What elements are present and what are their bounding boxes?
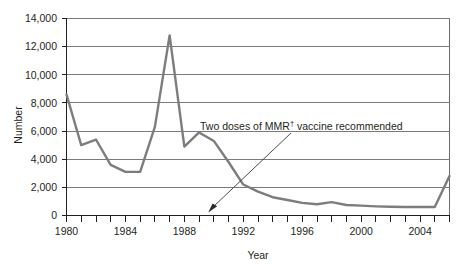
x-tick-label: 1992 xyxy=(232,225,256,237)
y-tick-label: 0 xyxy=(51,209,57,221)
x-tick-label: 2004 xyxy=(408,225,432,237)
y-tick-label: 12,000 xyxy=(25,40,57,52)
annotation-text-tail: vaccine recommended xyxy=(294,120,403,132)
y-tick-label: 2,000 xyxy=(31,181,57,193)
annotation-text-lead: Two doses of MMR xyxy=(200,120,290,132)
chart-background xyxy=(0,0,476,280)
y-axis-title: Number xyxy=(12,106,24,144)
x-tick-label: 1988 xyxy=(173,225,197,237)
measles-cases-line-chart: 14,000 12,000 10,000 8,000 6,000 4,000 2… xyxy=(0,0,476,280)
y-tick-label: 8,000 xyxy=(31,97,57,109)
y-tick-label: 10,000 xyxy=(25,69,57,81)
y-tick-label: 4,000 xyxy=(31,153,57,165)
x-tick-label: 2000 xyxy=(350,225,374,237)
y-tick-label: 6,000 xyxy=(31,125,57,137)
x-tick-label: 1980 xyxy=(55,225,79,237)
chart-figure: 14,000 12,000 10,000 8,000 6,000 4,000 2… xyxy=(0,0,476,280)
x-tick-label: 1984 xyxy=(114,225,138,237)
y-tick-label: 14,000 xyxy=(25,12,57,24)
annotation-text: Two doses of MMR† vaccine recommended xyxy=(200,119,403,132)
x-axis-title: Year xyxy=(247,249,269,261)
x-tick-label: 1996 xyxy=(291,225,315,237)
